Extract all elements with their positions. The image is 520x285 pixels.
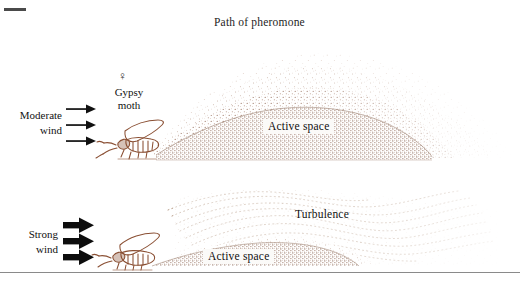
insect-label-line1: Gypsy — [100, 86, 158, 98]
wind-arrows-strong — [63, 218, 94, 265]
figure-title: Path of pheromone — [214, 16, 374, 28]
figure-artwork — [0, 0, 520, 285]
turbulence-label: Turbulence — [295, 208, 349, 220]
wind-label-moderate-line2: wind — [0, 124, 62, 136]
active-space-label-moderate: Active space — [263, 119, 334, 134]
pheromone-plume-figure: Path of pheromone — [0, 0, 520, 285]
female-symbol-icon: ♀ — [118, 70, 127, 82]
gypsy-moth-illustration-strong — [92, 233, 159, 270]
gypsy-moth-illustration-moderate — [96, 120, 163, 159]
insect-label-line2: moth — [100, 99, 158, 111]
bottom-divider-rule — [0, 272, 520, 273]
plume-outer-haze-moderate — [150, 54, 512, 158]
wind-label-strong-line2: wind — [0, 243, 58, 255]
wind-label-strong-line1: Strong — [0, 228, 58, 240]
plume-mid-haze-moderate — [152, 67, 488, 158]
wind-label-moderate-line1: Moderate — [0, 109, 62, 121]
wind-arrows-moderate — [66, 105, 96, 146]
active-space-label-strong: Active space — [203, 249, 274, 264]
corner-tick-mark — [4, 8, 26, 11]
